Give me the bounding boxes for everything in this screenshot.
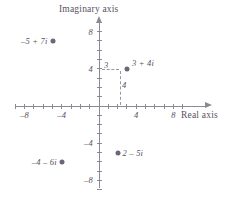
data-point-label: –5 + 7i	[21, 36, 48, 46]
data-point	[59, 159, 64, 164]
real-axis-tick	[145, 104, 146, 109]
imaginary-axis-tick-label: 8	[80, 27, 93, 37]
imaginary-axis-tick	[97, 87, 102, 88]
real-component-guide-label: 3	[104, 60, 108, 70]
real-axis-tick-label: 4	[134, 110, 138, 120]
real-axis-line	[16, 106, 206, 107]
imaginary-axis-title: Imaginary axis	[59, 4, 119, 14]
imaginary-component-guide-label: 4	[122, 80, 126, 90]
imaginary-component-guide-line	[120, 71, 121, 105]
real-axis-tick	[52, 104, 53, 109]
imaginary-axis-tick	[97, 96, 102, 97]
real-axis-tick	[24, 104, 25, 109]
real-axis-tick	[80, 104, 81, 109]
imaginary-axis-tick-label: –4	[80, 138, 93, 148]
imaginary-axis-line	[99, 22, 100, 188]
imaginary-axis-tick	[97, 180, 102, 181]
imaginary-axis-tick	[97, 31, 102, 32]
data-point	[124, 66, 129, 71]
imaginary-axis-tick	[97, 124, 102, 125]
real-axis-tick	[15, 104, 16, 109]
imaginary-axis-tick	[97, 143, 102, 144]
imaginary-axis-tick	[97, 22, 102, 23]
real-axis-tick-label: –8	[20, 110, 29, 120]
imaginary-axis-tick	[97, 50, 102, 51]
imaginary-axis-tick	[97, 133, 102, 134]
real-axis-tick	[108, 104, 109, 109]
imaginary-axis-tick-label: 4	[80, 64, 93, 74]
real-axis-tick	[89, 104, 90, 109]
real-axis-tick	[61, 104, 62, 109]
real-axis-title: Real axis	[181, 110, 218, 120]
imaginary-axis-tick	[97, 68, 102, 69]
complex-plane-figure: Imaginary axis Real axis –8–448 84–4–8 3…	[0, 0, 229, 198]
data-point-label: 2 – 5i	[123, 148, 144, 158]
real-axis-tick	[71, 104, 72, 109]
imaginary-axis-tick	[97, 189, 102, 190]
imaginary-axis-tick	[97, 152, 102, 153]
real-axis-tick	[164, 104, 165, 109]
imaginary-axis-tick	[97, 59, 102, 60]
data-point	[115, 150, 120, 155]
imaginary-axis-tick	[97, 78, 102, 79]
imaginary-axis-tick	[97, 40, 102, 41]
real-axis-tick	[173, 104, 174, 109]
data-point-label: –4 – 6i	[32, 157, 57, 167]
imaginary-axis-tick-label: –8	[80, 175, 93, 185]
data-point-label: 3 + 4i	[132, 58, 154, 68]
real-axis-tick	[43, 104, 44, 109]
real-axis-tick-label: –4	[57, 110, 66, 120]
real-axis-tick-label: 8	[171, 110, 175, 120]
real-axis-tick	[33, 104, 34, 109]
data-point	[50, 38, 55, 43]
real-axis-tick	[117, 104, 118, 109]
imaginary-axis-tick	[97, 161, 102, 162]
real-axis-tick	[182, 104, 183, 109]
real-axis-tick	[154, 104, 155, 109]
imaginary-axis-tick	[97, 115, 102, 116]
real-axis-tick	[126, 104, 127, 109]
real-axis-arrow-icon	[205, 102, 212, 108]
imaginary-axis-tick	[97, 171, 102, 172]
real-axis-tick	[136, 104, 137, 109]
